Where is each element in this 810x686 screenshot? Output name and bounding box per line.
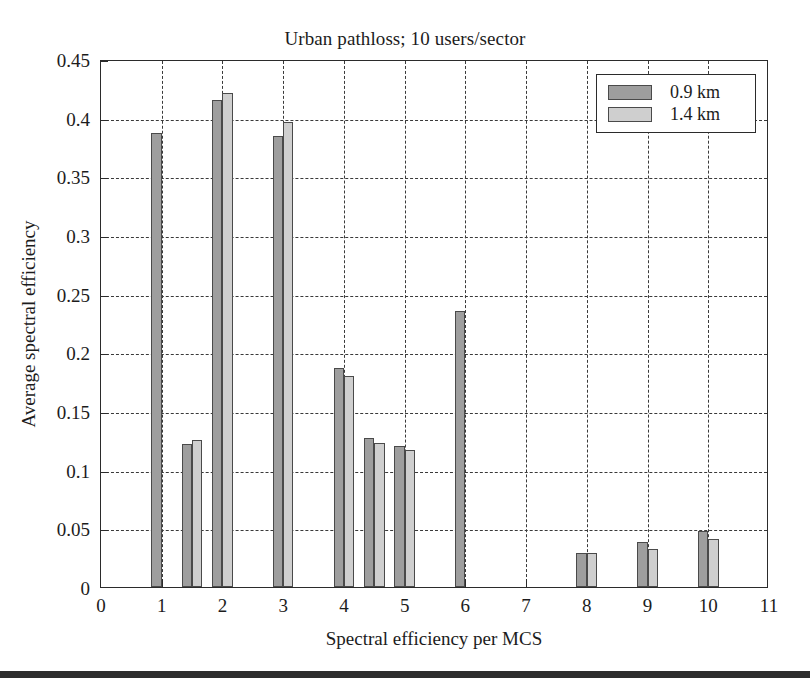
- gridline-horizontal: [101, 296, 767, 297]
- y-axis-tick: [101, 413, 108, 414]
- x-axis-tick-label: 6: [461, 595, 471, 617]
- legend-label: 1.4 km: [670, 104, 720, 125]
- gridline-horizontal: [101, 178, 767, 179]
- x-axis-tick-label: 8: [582, 595, 592, 617]
- bar: [455, 311, 465, 587]
- y-axis-tick: [101, 530, 108, 531]
- x-axis-tick: [465, 579, 466, 587]
- page-footer-rule: [0, 671, 810, 678]
- chart-title: Urban pathloss; 10 users/sector: [0, 28, 810, 50]
- x-axis-tick: [162, 579, 163, 587]
- gridline-vertical: [587, 61, 588, 587]
- gridline-vertical: [526, 61, 527, 587]
- y-axis-title: Average spectral efficiency: [18, 60, 40, 588]
- bar: [273, 136, 283, 587]
- y-axis-tick: [101, 237, 108, 238]
- gridline-vertical: [648, 61, 649, 587]
- legend-swatch: [608, 85, 652, 100]
- x-axis-tick-label: 3: [278, 595, 288, 617]
- gridline-vertical: [708, 61, 709, 587]
- x-axis-tick-label: 1: [157, 595, 167, 617]
- bar: [708, 539, 718, 587]
- gridline-vertical: [162, 61, 163, 587]
- bar: [151, 133, 161, 587]
- figure-canvas: Urban pathloss; 10 users/sector Average …: [0, 0, 810, 686]
- x-axis-tick-label: 2: [218, 595, 228, 617]
- bar: [374, 443, 384, 587]
- y-axis-tick: [101, 61, 108, 62]
- bar: [394, 446, 404, 587]
- bar: [587, 553, 597, 587]
- y-axis-tick-label: 0.3: [66, 226, 90, 248]
- x-axis-title: Spectral efficiency per MCS: [100, 628, 768, 650]
- gridline-vertical: [465, 61, 466, 587]
- legend-label: 0.9 km: [670, 82, 720, 103]
- y-axis-tick-label: 0.1: [66, 460, 90, 482]
- bar: [334, 368, 344, 587]
- x-axis-tick-label: 7: [521, 595, 531, 617]
- bar: [182, 444, 192, 587]
- y-axis-tick: [101, 472, 108, 473]
- bar: [637, 542, 647, 587]
- y-axis-tick: [101, 120, 108, 121]
- y-axis-tick: [101, 178, 108, 179]
- bar: [698, 531, 708, 587]
- x-axis-tick-label: 4: [339, 595, 349, 617]
- legend-item: 1.4 km: [597, 103, 755, 125]
- y-axis-tick: [101, 296, 108, 297]
- bar: [212, 100, 222, 587]
- y-axis-tick-label: 0.4: [66, 108, 90, 130]
- y-axis-tick-label: 0.2: [66, 343, 90, 365]
- x-axis-tick: [526, 579, 527, 587]
- gridline-horizontal: [101, 354, 767, 355]
- y-axis-tick-label: 0: [81, 578, 91, 600]
- bar: [405, 450, 415, 587]
- gridline-horizontal: [101, 237, 767, 238]
- y-axis-tick-label: 0.05: [57, 519, 90, 541]
- plot-area: 00.050.10.150.20.250.30.350.40.450123456…: [100, 60, 768, 588]
- bar: [364, 438, 374, 587]
- gridline-horizontal: [101, 413, 767, 414]
- y-axis-tick-label: 0.15: [57, 402, 90, 424]
- bar: [192, 440, 202, 587]
- bar: [222, 93, 232, 587]
- y-axis-tick-label: 0.25: [57, 284, 90, 306]
- legend-swatch: [608, 107, 652, 122]
- y-axis-tick: [101, 354, 108, 355]
- x-axis-tick-label: 11: [760, 595, 778, 617]
- bar: [344, 376, 354, 587]
- chart-legend: 0.9 km1.4 km: [596, 74, 756, 133]
- bar: [648, 549, 658, 587]
- legend-item: 0.9 km: [597, 81, 755, 103]
- y-axis-tick-label: 0.35: [57, 167, 90, 189]
- x-axis-tick-label: 5: [400, 595, 410, 617]
- bar: [283, 122, 293, 587]
- x-axis-tick-label: 9: [643, 595, 653, 617]
- bar: [576, 553, 586, 587]
- x-axis-tick-label: 10: [699, 595, 718, 617]
- x-axis-tick-label: 0: [96, 595, 106, 617]
- y-axis-tick-label: 0.45: [57, 50, 90, 72]
